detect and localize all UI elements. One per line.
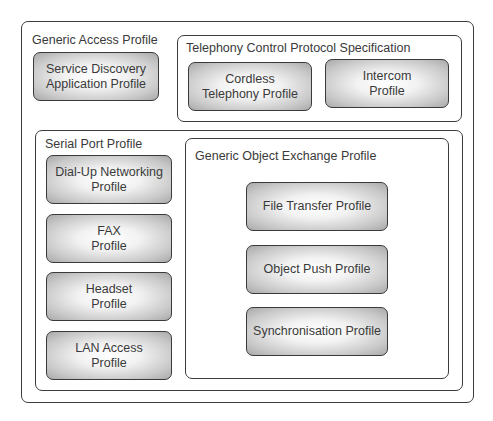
synchronisation-label: Synchronisation Profile <box>253 324 381 339</box>
intercom-label: Intercom Profile <box>363 69 412 99</box>
headset-label: Headset Profile <box>86 282 133 312</box>
generic-access-profile-label: Generic Access Profile <box>32 33 158 47</box>
fax-profile: FAX Profile <box>46 214 172 263</box>
file-transfer-profile: File Transfer Profile <box>246 182 388 231</box>
dial-up-networking-profile: Dial-Up Networking Profile <box>46 155 172 204</box>
object-push-label: Object Push Profile <box>264 262 371 277</box>
serial-port-profile-label: Serial Port Profile <box>45 137 142 151</box>
file-transfer-label: File Transfer Profile <box>263 199 371 214</box>
service-discovery-application-profile: Service Discovery Application Profile <box>33 52 159 101</box>
intercom-profile: Intercom Profile <box>325 59 449 108</box>
lan-access-profile: LAN Access Profile <box>46 331 172 380</box>
telephony-control-label: Telephony Control Protocol Specification <box>186 41 410 55</box>
cordless-telephony-profile: Cordless Telephony Profile <box>188 62 312 111</box>
synchronisation-profile: Synchronisation Profile <box>246 307 388 356</box>
generic-object-exchange-label: Generic Object Exchange Profile <box>195 149 376 163</box>
object-push-profile: Object Push Profile <box>246 245 388 294</box>
headset-profile: Headset Profile <box>46 272 172 321</box>
service-discovery-label: Service Discovery Application Profile <box>46 62 146 92</box>
dial-up-networking-label: Dial-Up Networking Profile <box>55 165 163 195</box>
lan-access-label: LAN Access Profile <box>75 341 142 371</box>
cordless-telephony-label: Cordless Telephony Profile <box>202 72 298 102</box>
fax-label: FAX Profile <box>91 224 126 254</box>
